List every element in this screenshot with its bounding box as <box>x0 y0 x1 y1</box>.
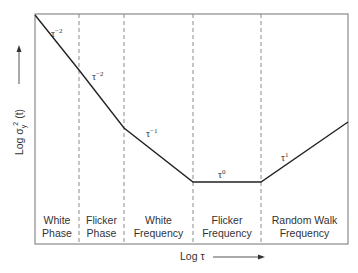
region-flicker-phase-line1: Flicker <box>86 214 117 226</box>
region-random-walk-frequency-line1: Random Walk <box>272 214 338 226</box>
slope-label-1: τ−2 <box>51 27 63 39</box>
x-axis-label: Log τ <box>180 250 205 262</box>
region-white-phase-line1: White <box>44 214 71 226</box>
slope-label-4: τ0 <box>218 168 226 180</box>
slope-label-2: τ−2 <box>92 70 104 82</box>
allan-variance-curve <box>35 15 348 182</box>
slope-label-3: τ−1 <box>146 127 158 139</box>
x-axis-arrow-icon <box>258 255 265 260</box>
svg-text:Log σy2 (t): Log σy2 (t) <box>12 109 28 155</box>
region-white-phase-line2: Phase <box>42 227 72 239</box>
region-flicker-frequency-line2: Frequency <box>202 227 252 239</box>
region-flicker-frequency-line1: Flicker <box>212 214 243 226</box>
region-white-frequency-line1: White <box>145 214 172 226</box>
region-random-walk-frequency-line2: Frequency <box>280 227 330 239</box>
y-axis-arrow-icon <box>17 45 22 52</box>
region-white-frequency-line2: Frequency <box>134 227 184 239</box>
allan-variance-diagram: τ−2 τ−2 τ−1 τ0 τ1 White Phase Flicker Ph… <box>0 0 358 273</box>
region-flicker-phase-line2: Phase <box>87 227 117 239</box>
slope-label-5: τ1 <box>281 151 289 163</box>
y-axis-label: Log σy2 (t) <box>12 109 28 155</box>
plot-frame <box>35 14 348 244</box>
region-labels: White Phase Flicker Phase White Frequenc… <box>42 214 338 239</box>
